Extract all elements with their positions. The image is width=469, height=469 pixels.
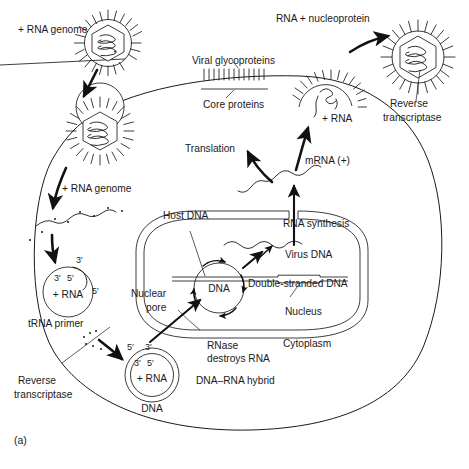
leader-lines: [62, 231, 300, 363]
prime-3-upper-inner-left: 3′: [54, 273, 61, 283]
virion-released-right: [381, 20, 455, 101]
nuclear-envelope: [136, 211, 368, 338]
free-rna-genome-strand: [29, 207, 123, 241]
plus-rna-lower-label: + RNA: [137, 373, 167, 384]
label-rna-nucleoprotein: RNA + nucleoprotein: [276, 13, 370, 24]
label-rna-genome-top: + RNA genome: [18, 24, 88, 35]
label-translation: Translation: [185, 143, 235, 154]
rna-circle-trna-primed: 3′ 3′ 5′ 5′ + RNA: [43, 255, 99, 317]
label-reverse-transcriptase-left-2: transcriptase: [14, 389, 73, 400]
mrna-squiggle: [238, 165, 321, 192]
panel-label: (a): [14, 434, 27, 446]
virion-budding: [293, 70, 367, 117]
prime-5-upper-inner-right: 5′: [67, 273, 74, 283]
circular-dna: DNA: [194, 261, 244, 316]
label-nucleus: Nucleus: [285, 306, 322, 317]
label-viral-glycoproteins: Viral glycoproteins: [192, 55, 275, 66]
label-dna-lower-circle: DNA: [141, 403, 163, 414]
label-virus-dna: Virus DNA: [285, 249, 333, 260]
prime-5-lower-outer-left: 5′: [127, 342, 134, 352]
label-rnase-2: destroys RNA: [207, 353, 270, 364]
prime-3-lower-inner-left: 3′: [134, 358, 141, 368]
label-reverse-transcriptase-right-1: Reverse: [390, 98, 428, 109]
label-host-dna: Host DNA: [163, 210, 208, 221]
label-trna-primer: tRNA primer: [28, 318, 84, 329]
label-nuclear-pore-1: Nuclear: [131, 288, 167, 299]
plus-rna-upper-label: + RNA: [53, 289, 83, 300]
nascent-rna-squiggle: [224, 241, 302, 248]
prime-5-lower-inner-right: 5′: [147, 358, 154, 368]
dna-circle-label: DNA: [208, 283, 230, 294]
figure-panel: DNA: [0, 0, 469, 469]
label-rna-genome-mid: + RNA genome: [62, 183, 132, 194]
label-mrna-plus: mRNA (+): [305, 155, 350, 166]
retrovirus-replication-diagram: DNA: [0, 0, 469, 469]
label-core-proteins: Core proteins: [203, 99, 264, 110]
prime-3-upper-top: 3′: [76, 255, 83, 265]
label-rna-synthesis: RNA synthesis: [283, 218, 349, 229]
prime-3-lower-outer-right: 3′: [145, 342, 152, 352]
virion-fusing-membrane: [66, 83, 134, 165]
label-plus-rna-bud: + RNA: [322, 113, 352, 124]
label-double-stranded-dna: Double-stranded DNA: [248, 278, 348, 289]
label-reverse-transcriptase-left-1: Reverse: [18, 375, 56, 386]
dna-rna-hybrid-circle: 5′ 3′ 3′ 5′ + RNA: [125, 342, 179, 402]
prime-5-upper-right: 5′: [92, 286, 99, 296]
label-nuclear-pore-2: pore: [146, 302, 167, 313]
virion-extracellular-top: [0, 10, 142, 76]
label-cytoplasm: Cytoplasm: [283, 338, 331, 349]
label-dna-rna-hybrid: DNA–RNA hybrid: [196, 375, 275, 386]
rna-genome-dots: [29, 207, 123, 241]
label-reverse-transcriptase-right-2: transcriptase: [383, 112, 442, 123]
label-rnase-1: RNase: [207, 340, 238, 351]
